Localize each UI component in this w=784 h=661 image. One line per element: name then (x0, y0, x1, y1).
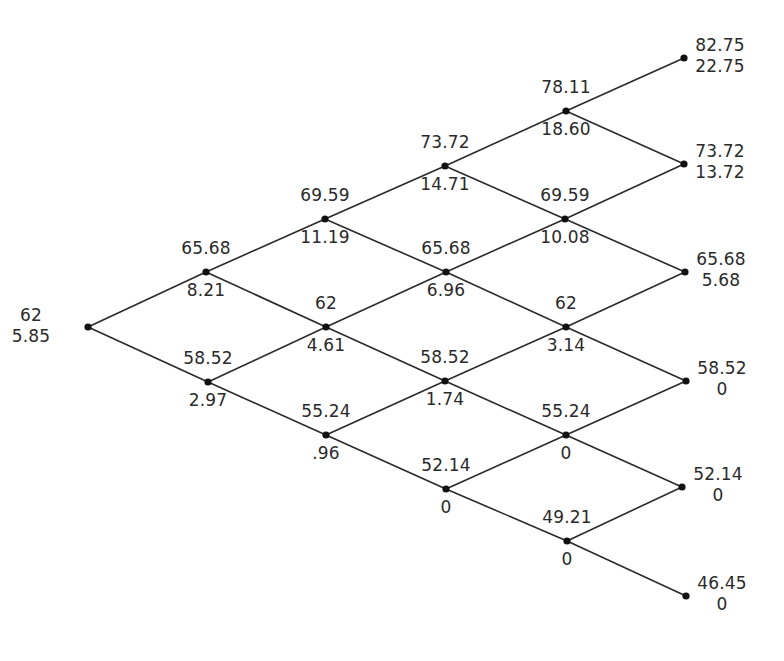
tree-node-dot (562, 323, 569, 330)
tree-node-dot (562, 431, 569, 438)
tree-node-dot (204, 378, 211, 385)
node-value-label: 14.71 (420, 174, 470, 194)
tree-node-dot (680, 160, 687, 167)
node-value-label: 11.19 (300, 227, 350, 247)
tree-node-dot (322, 323, 329, 330)
node-price-label: 62 (20, 305, 42, 325)
tree-node-dot (681, 268, 688, 275)
tree-node-dot (682, 377, 689, 384)
tree-edges (88, 58, 686, 596)
node-price-label: 82.75 (695, 35, 745, 55)
node-price-label: 62 (315, 293, 337, 313)
tree-edge (566, 272, 685, 327)
tree-node-dot (84, 323, 91, 330)
tree-node-dot (678, 483, 685, 490)
node-price-label: 46.45 (697, 573, 747, 593)
node-value-label: 0 (560, 443, 571, 463)
node-value-label: .96 (312, 443, 340, 463)
node-price-label: 52.14 (693, 464, 743, 484)
tree-node-dot (202, 268, 209, 275)
node-price-label: 73.72 (420, 132, 470, 152)
node-price-label: 52.14 (421, 455, 471, 475)
node-price-label: 65.68 (696, 249, 746, 269)
node-price-label: 62 (555, 293, 577, 313)
tree-nodes (84, 54, 689, 599)
node-value-label: 18.60 (541, 119, 591, 139)
tree-node-dot (442, 485, 449, 492)
node-price-label: 55.24 (301, 401, 351, 421)
tree-edge (566, 435, 682, 487)
node-value-label: 4.61 (307, 335, 346, 355)
node-value-label: 2.97 (189, 390, 228, 410)
node-value-label: 0 (716, 594, 727, 614)
tree-node-dot (563, 537, 570, 544)
tree-node-dot (322, 431, 329, 438)
node-price-label: 55.24 (541, 401, 591, 421)
node-value-label: 8.21 (187, 280, 226, 300)
binomial-tree (0, 0, 784, 661)
node-value-label: 0 (712, 485, 723, 505)
node-price-label: 65.68 (181, 238, 231, 258)
tree-node-dot (321, 215, 328, 222)
node-value-label: 1.74 (426, 389, 465, 409)
tree-node-dot (442, 268, 449, 275)
node-value-label: 13.72 (695, 162, 745, 182)
tree-node-dot (562, 107, 569, 114)
node-price-label: 58.52 (183, 348, 233, 368)
node-value-label: 0 (440, 497, 451, 517)
node-price-label: 65.68 (421, 238, 471, 258)
node-value-label: 0 (561, 549, 572, 569)
node-value-label: 10.08 (540, 227, 590, 247)
tree-edge (567, 541, 686, 596)
node-price-label: 49.21 (542, 507, 592, 527)
node-value-label: 6.96 (427, 280, 466, 300)
node-price-label: 69.59 (300, 185, 350, 205)
node-price-label: 58.52 (697, 358, 747, 378)
node-price-label: 78.11 (541, 77, 591, 97)
node-value-label: 22.75 (695, 56, 745, 76)
node-value-label: 3.14 (547, 335, 586, 355)
node-price-label: 58.52 (420, 347, 470, 367)
node-value-label: 5.68 (702, 270, 741, 290)
node-value-label: 5.85 (12, 326, 51, 346)
node-value-label: 0 (716, 379, 727, 399)
tree-node-dot (441, 162, 448, 169)
node-price-label: 73.72 (695, 141, 745, 161)
tree-node-dot (680, 54, 687, 61)
tree-node-dot (441, 377, 448, 384)
tree-node-dot (561, 215, 568, 222)
node-price-label: 69.59 (540, 185, 590, 205)
tree-node-dot (682, 592, 689, 599)
